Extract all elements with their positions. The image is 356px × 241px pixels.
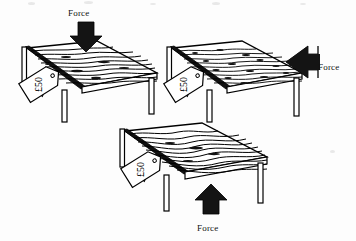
force-label-up: Force [197,223,219,233]
scene-table-force-up: Force [92,115,297,240]
table-leg-back-left [167,47,172,83]
table-leg-back-left [22,47,27,83]
table-leg-front-right [294,78,299,116]
scan-artifact [84,1,93,4]
figure-canvas: Force [0,0,356,241]
force-label-sideways: Force [318,62,340,72]
table-leg-back-left [120,129,125,167]
table-leg-front-right [149,78,154,114]
force-arrow-up [195,184,227,214]
scan-artifact [28,2,35,5]
scene-table-force-down: Force [0,0,178,120]
table-leg-front-left [164,175,169,211]
price-tag-label: £50 [33,77,44,92]
table-illustration-up: £50 [92,115,297,240]
price-tag-label: £50 [178,77,189,92]
price-tag-label: £50 [135,162,146,177]
force-label-down: Force [68,8,90,18]
scan-artifact [212,2,220,5]
scan-artifact [150,3,156,5]
scan-artifact [330,150,335,153]
table-leg-front-left [62,90,67,122]
table-leg-front-right [258,163,263,203]
scan-artifact [300,3,306,5]
scene-table-force-sideways: Force [160,8,356,123]
table-illustration-down: £50 [0,0,178,120]
